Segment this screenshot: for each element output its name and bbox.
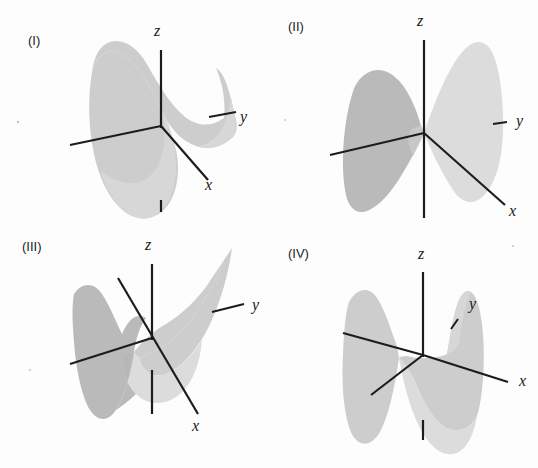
plot-iii-canvas: z y x [0, 234, 269, 468]
axis-label-y: y [238, 108, 248, 126]
axis-label-z: z [417, 245, 425, 262]
plot-i-canvas: z y x [0, 0, 269, 234]
panel-iii: (III) z y x [0, 234, 269, 468]
axis-label-x: x [204, 176, 212, 193]
axis-label-x: x [191, 417, 199, 434]
axis-label-z: z [153, 22, 161, 39]
axis-label-x: x [508, 202, 516, 219]
axis-label-y: y [250, 296, 260, 314]
axis-label-y: y [514, 112, 524, 130]
panel-iv: (IV) z y x [269, 234, 538, 468]
plot-ii-canvas: z y x [269, 0, 538, 234]
axis-label-z: z [144, 236, 152, 253]
axis-label-y: y [467, 295, 477, 313]
axis-label-x: x [518, 372, 526, 389]
plot-iv-canvas: z y x [269, 234, 538, 468]
axis-label-z: z [416, 12, 424, 29]
figure-page: (I) z y x (II) [0, 0, 538, 468]
panel-i: (I) z y x [0, 0, 269, 234]
panel-ii: (II) z y x [269, 0, 538, 234]
surface-iv [342, 290, 483, 454]
